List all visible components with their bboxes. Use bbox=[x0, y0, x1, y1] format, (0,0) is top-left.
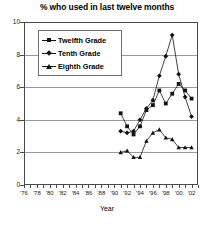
legend-label: Tenth Grade bbox=[56, 49, 100, 58]
series-line bbox=[121, 35, 192, 133]
data-point bbox=[176, 72, 181, 77]
data-point bbox=[151, 131, 155, 135]
data-point bbox=[138, 124, 142, 128]
data-point bbox=[183, 95, 188, 100]
data-point bbox=[189, 114, 194, 119]
data-point bbox=[125, 124, 129, 128]
series-twelfth-grade bbox=[119, 82, 194, 136]
data-point bbox=[163, 54, 168, 59]
legend-item-twelfth-grade: Twelfth Grade bbox=[42, 34, 121, 47]
legend-label: Twelfth Grade bbox=[56, 36, 106, 45]
chart-legend: Twelfth Grade Tenth Grade Eighth Grade bbox=[38, 30, 122, 76]
data-point bbox=[157, 89, 161, 93]
data-point bbox=[170, 33, 175, 38]
data-point bbox=[125, 148, 129, 152]
data-point bbox=[170, 92, 174, 96]
chart-container: % who used in last twelve months 0246810… bbox=[0, 0, 214, 229]
data-point bbox=[157, 73, 162, 78]
x-axis-title: Year bbox=[0, 205, 214, 212]
legend-marker-square-icon bbox=[42, 36, 56, 46]
legend-label: Eighth Grade bbox=[56, 62, 104, 71]
series-line bbox=[121, 84, 192, 135]
legend-item-eighth-grade: Eighth Grade bbox=[42, 60, 121, 73]
legend-item-tenth-grade: Tenth Grade bbox=[42, 47, 121, 60]
legend-marker-triangle-icon bbox=[42, 62, 56, 72]
series-line bbox=[121, 130, 192, 158]
series-tenth-grade bbox=[118, 33, 194, 136]
data-point bbox=[157, 127, 161, 131]
data-point bbox=[177, 82, 181, 86]
data-point bbox=[119, 111, 123, 115]
data-point bbox=[118, 129, 123, 134]
data-point bbox=[125, 130, 130, 135]
data-point bbox=[151, 103, 155, 107]
data-point bbox=[190, 97, 194, 101]
legend-marker-diamond-icon bbox=[42, 49, 56, 59]
data-point bbox=[164, 102, 168, 106]
